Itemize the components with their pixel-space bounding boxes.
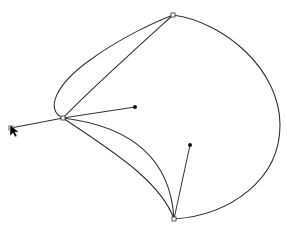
handle-point-right[interactable] (133, 105, 137, 109)
anchor-junction[interactable] (61, 116, 65, 120)
anchor-bottom[interactable] (172, 217, 176, 221)
canvas-background (0, 0, 287, 232)
handle-point-lower[interactable] (188, 143, 192, 147)
anchor-top[interactable] (171, 13, 175, 17)
drawing-canvas[interactable] (0, 0, 287, 232)
